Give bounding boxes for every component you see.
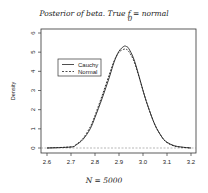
x-tick-label: 3.2	[187, 159, 196, 165]
y-tick-label: 5	[30, 50, 36, 54]
x-axis-caption: N = 5000	[0, 176, 208, 185]
y-tick-label: 3	[30, 88, 36, 92]
x-tick-label: 3.0	[139, 159, 148, 165]
y-tick-label: 2	[30, 107, 36, 111]
y-tick-label: 0	[30, 146, 36, 150]
y-tick-label: 4	[30, 69, 36, 73]
y-tick-label: 1	[30, 127, 36, 131]
legend-label-normal: Normal	[78, 69, 97, 75]
plot-frame	[41, 29, 196, 153]
x-tick-label: 2.7	[67, 159, 76, 165]
legend-label-cauchy: Cauchy	[78, 62, 98, 68]
y-axis-label: Density	[10, 82, 16, 101]
x-tick-label: 2.8	[91, 159, 100, 165]
density-plot: 2.62.72.82.93.03.13.20123456DensityCauch…	[0, 0, 208, 193]
x-tick-label: 3.1	[163, 159, 172, 165]
y-tick-label: 6	[30, 31, 36, 35]
x-tick-label: 2.9	[115, 159, 124, 165]
x-tick-label: 2.6	[43, 159, 52, 165]
